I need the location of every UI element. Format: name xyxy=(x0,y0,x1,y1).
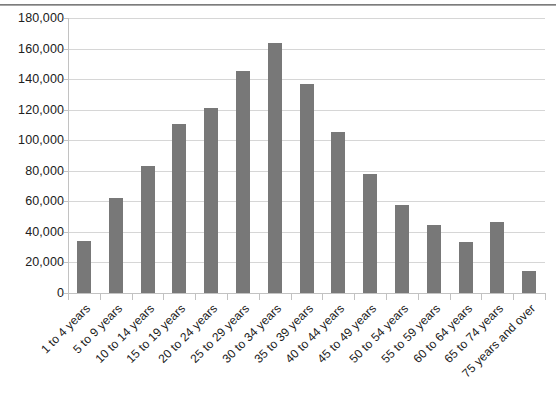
x-axis-tick xyxy=(291,294,292,300)
x-axis-tick-label: 55 to 59 years xyxy=(379,302,442,365)
x-axis-tick xyxy=(450,294,451,300)
bar xyxy=(172,124,186,293)
x-axis-tick xyxy=(386,294,387,300)
plot-area xyxy=(68,18,545,293)
x-axis-tick-label: 35 to 39 years xyxy=(252,302,315,365)
bar xyxy=(427,225,441,293)
x-axis-tick-label: 15 to 19 years xyxy=(125,302,188,365)
y-axis-tick-label: 120,000 xyxy=(2,103,64,116)
bar xyxy=(77,241,91,293)
top-edge-rule xyxy=(0,4,556,6)
x-axis-tick xyxy=(481,294,482,300)
x-axis-tick xyxy=(259,294,260,300)
y-axis-tick xyxy=(64,171,68,172)
x-axis-tick-label: 25 to 29 years xyxy=(188,302,251,365)
x-axis-tick xyxy=(227,294,228,300)
bar xyxy=(363,174,377,293)
x-axis-tick-label: 45 to 49 years xyxy=(315,302,378,365)
x-axis-tick xyxy=(513,294,514,300)
x-axis-tick-label: 20 to 24 years xyxy=(156,302,219,365)
bar xyxy=(268,43,282,293)
bar xyxy=(522,271,536,293)
bar xyxy=(490,222,504,293)
x-axis-tick-label: 40 to 44 years xyxy=(284,302,347,365)
y-axis-tick-label: 80,000 xyxy=(2,165,64,178)
x-axis-tick xyxy=(322,294,323,300)
bar xyxy=(109,198,123,293)
y-axis-tick xyxy=(64,232,68,233)
gridline xyxy=(68,18,545,19)
x-axis-tick-label: 60 to 64 years xyxy=(411,302,474,365)
bar-chart: 180,000160,000140,000120,000100,00080,00… xyxy=(0,0,556,403)
bar xyxy=(300,84,314,293)
x-axis-tick-label: 30 to 34 years xyxy=(220,302,283,365)
x-axis-tick xyxy=(545,294,546,300)
x-axis-tick-label: 10 to 14 years xyxy=(93,302,156,365)
y-axis-tick-label: 140,000 xyxy=(2,73,64,86)
y-axis-tick xyxy=(64,201,68,202)
x-axis-tick xyxy=(163,294,164,300)
x-axis-tick-label: 75 years and over xyxy=(460,302,538,380)
y-axis-line xyxy=(68,18,69,294)
x-axis-tick xyxy=(195,294,196,300)
x-axis-tick xyxy=(68,294,69,300)
bar xyxy=(331,132,345,293)
bar xyxy=(395,205,409,293)
bar xyxy=(236,71,250,293)
y-axis-tick xyxy=(64,79,68,80)
gridline xyxy=(68,79,545,80)
bar xyxy=(204,108,218,293)
y-axis-labels: 180,000160,000140,000120,000100,00080,00… xyxy=(0,0,64,403)
y-axis-tick-label: 160,000 xyxy=(2,42,64,55)
x-axis-tick-label: 65 to 74 years xyxy=(443,302,506,365)
y-axis-tick xyxy=(64,110,68,111)
y-axis-tick xyxy=(64,49,68,50)
y-axis-tick-label: 180,000 xyxy=(2,12,64,25)
y-axis-tick xyxy=(64,140,68,141)
bar xyxy=(141,166,155,293)
x-axis-tick xyxy=(418,294,419,300)
x-axis-tick-label: 5 to 9 years xyxy=(70,302,124,356)
x-axis-tick xyxy=(100,294,101,300)
x-axis-tick xyxy=(132,294,133,300)
bar xyxy=(459,242,473,293)
y-axis-tick-label: 0 xyxy=(2,287,64,300)
y-axis-tick-label: 40,000 xyxy=(2,226,64,239)
y-axis-tick xyxy=(64,18,68,19)
gridline xyxy=(68,49,545,50)
y-axis-tick-label: 20,000 xyxy=(2,256,64,269)
x-axis-tick xyxy=(354,294,355,300)
y-axis-tick-label: 100,000 xyxy=(2,134,64,147)
x-axis-tick-label: 50 to 54 years xyxy=(347,302,410,365)
y-axis-tick xyxy=(64,262,68,263)
y-axis-tick-label: 60,000 xyxy=(2,195,64,208)
x-axis-line xyxy=(68,293,546,294)
